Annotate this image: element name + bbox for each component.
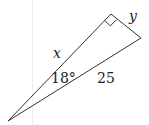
label-y: y	[128, 8, 138, 24]
label-angle: 18°	[51, 70, 76, 86]
label-hypotenuse: 25	[97, 70, 115, 86]
triangle-shape	[8, 14, 141, 121]
label-x: x	[53, 45, 61, 61]
right-angle-marker	[105, 20, 117, 26]
triangle-diagram: y x 18° 25	[0, 0, 149, 125]
